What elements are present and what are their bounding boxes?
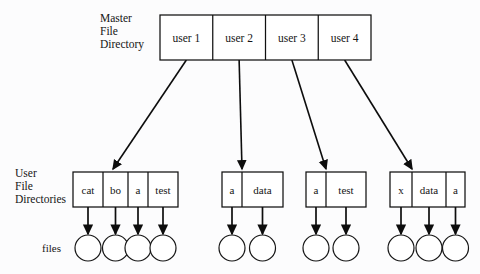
master-cell-2[interactable]: user 2 <box>225 32 253 44</box>
user-directory-3[interactable]: atest <box>306 172 366 207</box>
link-user-directory-1 <box>113 60 186 169</box>
link-layer <box>113 60 412 169</box>
user-directory-3-cell-2[interactable]: test <box>338 184 353 196</box>
file-system-diagram: MasterFileDirectoryUserFileDirectoriesfi… <box>0 0 480 274</box>
link-user-directory-2 <box>239 60 242 169</box>
file-circle[interactable] <box>125 235 151 261</box>
file-circle[interactable] <box>150 235 176 261</box>
user-directories-label-line: Directories <box>15 193 67 205</box>
user-directory-1-cell-4[interactable]: test <box>155 184 170 196</box>
directories-layer: catboatestadataatestxdataa <box>73 172 465 207</box>
file-node[interactable] <box>333 207 359 261</box>
user-directory-4-cell-2[interactable]: data <box>420 184 438 196</box>
user-directory-2-cell-2[interactable]: data <box>253 184 271 196</box>
master-directory-label-line: Directory <box>100 38 144 51</box>
file-circle[interactable] <box>333 235 359 261</box>
master-cell-4[interactable]: user 4 <box>331 32 359 44</box>
user-directory-4-cell-3[interactable]: a <box>453 184 458 196</box>
file-node[interactable] <box>416 207 442 261</box>
master-directory-label-line: File <box>100 25 118 37</box>
master-layer: user 1user 2user 3user 4 <box>160 15 371 60</box>
file-circle[interactable] <box>303 235 329 261</box>
diagram-page: MasterFileDirectoryUserFileDirectoriesfi… <box>0 0 480 274</box>
master-cell-3[interactable]: user 3 <box>278 32 306 44</box>
user-directory-3-cell-1[interactable]: a <box>314 184 319 196</box>
user-directory-1[interactable]: catboatest <box>73 172 178 207</box>
user-directories-label-line: File <box>15 180 33 192</box>
file-node[interactable] <box>75 207 101 261</box>
master-directory-label-line: Master <box>100 12 132 24</box>
file-node[interactable] <box>150 207 176 261</box>
side-labels: MasterFileDirectoryUserFileDirectoriesfi… <box>15 12 144 254</box>
user-directory-4[interactable]: xdataa <box>390 172 465 207</box>
file-circle[interactable] <box>250 235 276 261</box>
master-cell-1[interactable]: user 1 <box>172 32 200 44</box>
file-node[interactable] <box>443 207 469 261</box>
user-directory-1-cell-2[interactable]: bo <box>110 184 122 196</box>
user-directory-1-cell-1[interactable]: cat <box>82 184 95 196</box>
master-file-directory[interactable]: user 1user 2user 3user 4 <box>160 15 371 60</box>
file-node[interactable] <box>388 207 414 261</box>
user-directories-label-line: User <box>15 167 37 179</box>
user-directory-4-cell-1[interactable]: x <box>398 184 404 196</box>
file-circle[interactable] <box>443 235 469 261</box>
file-circle[interactable] <box>416 235 442 261</box>
file-node[interactable] <box>103 207 129 261</box>
files-layer <box>75 207 469 261</box>
files-label: files <box>42 242 61 254</box>
user-directory-1-cell-3[interactable]: a <box>136 184 141 196</box>
file-circle[interactable] <box>75 235 101 261</box>
file-node[interactable] <box>303 207 329 261</box>
file-node[interactable] <box>219 207 245 261</box>
file-circle[interactable] <box>219 235 245 261</box>
file-circle[interactable] <box>388 235 414 261</box>
file-node[interactable] <box>250 207 276 261</box>
link-user-directory-4 <box>345 60 412 169</box>
link-user-directory-3 <box>292 60 326 169</box>
user-directory-2[interactable]: adata <box>222 172 283 207</box>
file-node[interactable] <box>125 207 151 261</box>
user-directory-2-cell-1[interactable]: a <box>230 184 235 196</box>
